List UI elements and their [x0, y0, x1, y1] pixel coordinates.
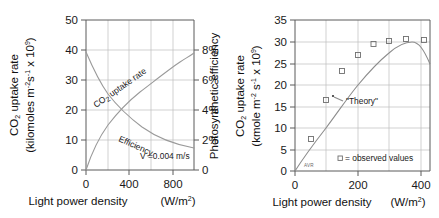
- right-theory-pointer-dot: [332, 95, 334, 97]
- right-ytick-15: 15: [274, 101, 287, 113]
- left-rtick-0: 0: [202, 164, 208, 176]
- chart-panel-left: 0 10 20 30 40 50 0 2% 4% 6% 8%: [0, 0, 222, 218]
- left-ytick-20: 20: [65, 104, 78, 116]
- right-ytick-10: 10: [274, 122, 287, 134]
- right-y-axis-title-line2: (kmole m-2 s-1 x 109): [250, 45, 262, 147]
- left-ytick-30: 30: [65, 74, 78, 86]
- right-xtick-0: 0: [292, 179, 298, 191]
- right-annotation-avr: AVR: [304, 163, 314, 168]
- left-ytick-0: 0: [72, 164, 78, 176]
- right-chart-svg: 0 5 10 15 20 25 30 35 0 200 400: [222, 0, 439, 218]
- right-xtick-200: 200: [348, 179, 367, 191]
- left-y-axis-title-line2: (kilomoles m-2s-1 x 109): [24, 37, 36, 153]
- right-x-axis-units: (W/m2): [390, 196, 425, 208]
- right-y-axis-ticks: 0 5 10 15 20 25 30 35: [274, 14, 295, 177]
- right-ytick-0: 0: [281, 165, 287, 177]
- left-ytick-50: 50: [65, 14, 78, 26]
- right-legend: = observed values: [338, 153, 413, 163]
- left-xtick-800: 800: [163, 178, 182, 190]
- left-x-axis-ticks: 0 400 800: [83, 170, 183, 190]
- right-annotation-theory: "Theory": [346, 96, 378, 106]
- chart-panel-right: 0 5 10 15 20 25 30 35 0 200 400: [222, 0, 439, 218]
- right-ytick-35: 35: [274, 14, 287, 26]
- left-x-axis-title: Light power density: [28, 195, 127, 207]
- right-x-axis-title: Light power density: [272, 196, 371, 208]
- left-y-axis-title-line1: CO2 uptake rate: [8, 54, 21, 136]
- left-annotation-velocity: V =0.004 m/s: [140, 151, 190, 161]
- left-chart-svg: 0 10 20 30 40 50 0 2% 4% 6% 8%: [0, 0, 222, 218]
- left-ytick-10: 10: [65, 134, 78, 146]
- left-xtick-400: 400: [119, 178, 138, 190]
- two-panel-figure: 0 10 20 30 40 50 0 2% 4% 6% 8%: [0, 0, 439, 218]
- right-theory-curve: [295, 42, 430, 171]
- data-point-marker: [404, 37, 409, 42]
- left-x-axis-units: (W/m2): [160, 195, 195, 207]
- right-theory-leader-line: [334, 97, 343, 101]
- legend-label: = observed values: [345, 153, 413, 163]
- left-panel-right-axis-title: Photosynthetic efficiency: [208, 33, 220, 160]
- left-xtick-0: 0: [83, 178, 89, 190]
- data-point-marker: [309, 137, 314, 142]
- right-ytick-30: 30: [274, 36, 287, 48]
- right-ytick-5: 5: [281, 144, 287, 156]
- left-y-axis-ticks: 0 10 20 30 40 50: [65, 14, 86, 176]
- right-ytick-20: 20: [274, 79, 287, 91]
- left-ytick-40: 40: [65, 44, 78, 56]
- data-point-marker: [340, 69, 345, 74]
- left-label-co2-curve: CO2 uptake rate: [91, 66, 148, 111]
- right-ytick-25: 25: [274, 58, 287, 70]
- right-x-axis-ticks: 0 200 400: [292, 171, 431, 191]
- legend-square-marker-icon: [338, 156, 342, 160]
- right-xtick-400: 400: [411, 179, 430, 191]
- right-y-axis-title-line1: CO2 uptake rate: [234, 55, 247, 137]
